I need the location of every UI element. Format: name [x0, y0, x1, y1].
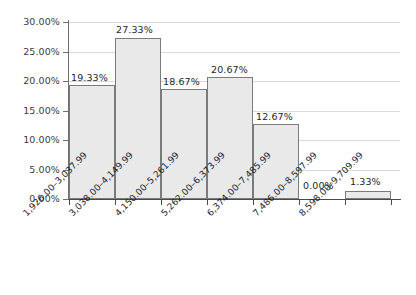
bar-value-label-1: 19.33% [71, 72, 108, 83]
x-axis-line [68, 199, 401, 200]
bar-7[interactable] [345, 191, 391, 199]
gridline-30 [69, 22, 400, 23]
histogram-chart: 30.00% 25.00% 20.00% 15.00% 10.00% 5.00%… [0, 0, 416, 295]
bar-value-label-4: 20.67% [211, 64, 248, 75]
y-tick-label-30: 30.00% [5, 16, 60, 27]
bar-value-label-3: 18.67% [163, 76, 200, 87]
y-tick-label-10: 10.00% [5, 134, 60, 145]
y-tick-mark-25 [63, 52, 69, 53]
x-tick-mark-2 [161, 199, 162, 205]
x-tick-mark-4 [253, 199, 254, 205]
bar-value-label-5: 12.67% [256, 111, 293, 122]
x-tick-mark-7 [391, 199, 392, 205]
bar-value-label-7: 1.33% [350, 176, 381, 187]
y-tick-mark-20 [63, 81, 69, 82]
y-tick-label-5: 5.00% [5, 164, 60, 175]
x-tick-mark-6 [345, 199, 346, 205]
y-tick-label-25: 25.00% [5, 46, 60, 57]
x-tick-mark-3 [207, 199, 208, 205]
x-tick-mark-1 [115, 199, 116, 205]
y-tick-mark-30 [63, 22, 69, 23]
y-tick-label-20: 20.00% [5, 75, 60, 86]
bar-value-label-2: 27.33% [116, 24, 153, 35]
x-tick-mark-5 [299, 199, 300, 205]
y-tick-label-15: 15.00% [5, 105, 60, 116]
x-tick-mark-0 [69, 199, 70, 205]
